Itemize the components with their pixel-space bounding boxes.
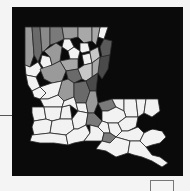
legend-box (150, 180, 174, 191)
parish-n-3[interactable] (78, 27, 92, 43)
parish-c-1c[interactable] (80, 43, 90, 53)
louisiana-map (12, 7, 183, 176)
parish-sw-3[interactable] (32, 119, 52, 135)
map-panel (12, 7, 183, 176)
parish-coast-1[interactable] (30, 133, 68, 145)
parish-delta-3[interactable] (140, 129, 166, 147)
lake-borgne (156, 123, 166, 131)
parish-sw-1[interactable] (32, 107, 46, 121)
parish-ne-2[interactable] (100, 39, 112, 57)
parish-se-1d[interactable] (144, 99, 160, 117)
parish-n-2[interactable] (62, 27, 78, 39)
parish-n-1[interactable] (50, 27, 64, 45)
lake-pontchartrain (138, 118, 158, 130)
